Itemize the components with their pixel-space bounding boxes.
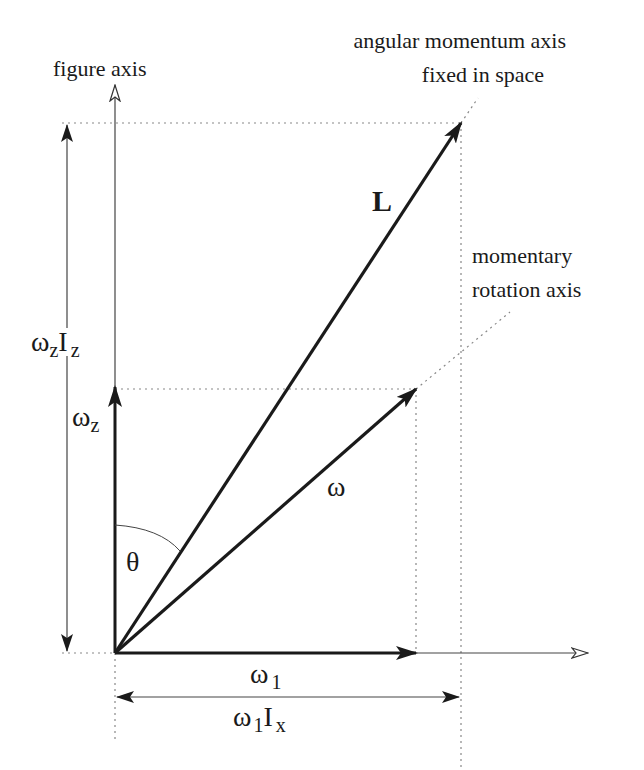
L-axis-extension	[461, 98, 478, 123]
figure-axis-label: figure axis	[53, 58, 146, 80]
omega-1-Ix-subscript2: x	[276, 714, 286, 736]
theta-arc	[115, 525, 180, 551]
momentary-rotation-axis-label-line2: rotation axis	[472, 279, 581, 301]
omega-z-Iz-label: ωzIz	[29, 328, 82, 356]
L-label: L	[372, 186, 392, 216]
omega-axis-extension	[416, 312, 510, 389]
omega-1-Ix-I: I	[263, 701, 272, 732]
omega-z-Iz-I: I	[58, 326, 67, 357]
omega-z-base: ω	[72, 401, 90, 432]
omega-label: ω	[327, 473, 345, 501]
omega-z-subscript: z	[90, 414, 99, 436]
diagram-stage: figure axis angular momentum axis fixed …	[0, 0, 644, 770]
omega-1-Ix-base: ω	[233, 701, 251, 732]
omega-1-Ix-label: ω1Ix	[233, 703, 286, 731]
omega-z-Iz-subscript2: z	[71, 339, 80, 361]
omega-1-base: ω	[250, 658, 268, 689]
omega-1-label: ω1	[250, 660, 281, 688]
angular-momentum-axis-label-line2: fixed in space	[290, 64, 544, 86]
omega-z-Iz-base: ω	[31, 326, 49, 357]
omega-z-Iz-subscript1: z	[49, 339, 58, 361]
angular-momentum-axis-label-line1: angular momentum axis	[290, 30, 566, 52]
theta-label: θ	[126, 548, 139, 576]
vector-diagram	[0, 0, 644, 770]
L-vector	[115, 123, 461, 653]
construction-lines	[62, 98, 510, 770]
omega-1-Ix-subscript1: 1	[253, 714, 263, 736]
omega-z-label: ωz	[72, 403, 99, 431]
omega-1-subscript: 1	[271, 671, 281, 693]
momentary-rotation-axis-label-line1: momentary	[472, 245, 572, 267]
omega-vector	[115, 389, 416, 653]
